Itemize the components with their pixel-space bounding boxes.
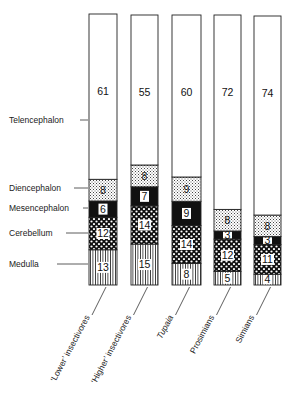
value-label: 8 bbox=[225, 214, 231, 226]
value-label: 14 bbox=[139, 219, 151, 231]
category-leader-line bbox=[134, 287, 148, 315]
value-label: 5 bbox=[225, 272, 231, 284]
value-label: 6 bbox=[100, 203, 106, 215]
value-label: 60 bbox=[181, 86, 193, 98]
value-label: 55 bbox=[139, 86, 151, 98]
value-label: 74 bbox=[262, 87, 274, 99]
value-label: 8 bbox=[265, 220, 271, 232]
value-label: 12 bbox=[97, 227, 109, 239]
value-label: 7 bbox=[142, 190, 148, 202]
row-label-cerebellum: Cerebellum bbox=[9, 228, 52, 238]
category-leader-line bbox=[217, 287, 231, 315]
row-label-diencephalon: Diencephalon bbox=[9, 183, 61, 193]
bar-3: 5123872 bbox=[214, 15, 241, 285]
category-labels-group: ‘Lower’ insectivores‘Higher’ insectivore… bbox=[48, 287, 270, 385]
value-label: 12 bbox=[222, 249, 234, 261]
value-label: 15 bbox=[139, 258, 151, 270]
category-label: Tupaia bbox=[155, 313, 176, 340]
value-label: 13 bbox=[97, 261, 109, 273]
bar-0: 13126861 bbox=[89, 14, 117, 285]
value-label: 72 bbox=[222, 86, 234, 98]
category-leader-line bbox=[92, 287, 106, 315]
category-label: Prosimians bbox=[188, 313, 217, 355]
bars-group: 1312686115147855814996051238724113874 bbox=[89, 14, 281, 285]
segment-telencephalon bbox=[214, 15, 241, 209]
row-label-medulla: Medulla bbox=[9, 259, 39, 269]
row-label-mesencephalon: Mesencephalon bbox=[9, 203, 69, 213]
bar-1: 15147855 bbox=[131, 15, 158, 285]
value-label: 9 bbox=[184, 183, 190, 195]
value-label: 9 bbox=[184, 207, 190, 219]
category-label: Simians bbox=[233, 313, 256, 344]
category-leader-line bbox=[257, 287, 271, 315]
value-label: 14 bbox=[181, 238, 193, 250]
segment-telencephalon bbox=[254, 16, 281, 215]
category-label: ‘Lower’ insectivores bbox=[48, 313, 92, 383]
value-label: 8 bbox=[142, 170, 148, 182]
stacked-bar-chart: 1312686115147855814996051238724113874 Te… bbox=[0, 0, 297, 403]
row-label-telencephalon: Telencephalon bbox=[9, 115, 64, 125]
bar-4: 4113874 bbox=[254, 16, 281, 285]
row-labels-group: TelencephalonDiencephalonMesencephalonCe… bbox=[9, 115, 88, 269]
category-label: ‘Higher’ insectivores bbox=[89, 313, 134, 385]
value-label: 11 bbox=[262, 253, 273, 265]
value-label: 61 bbox=[97, 85, 109, 97]
bar-2: 8149960 bbox=[172, 15, 201, 285]
value-label: 8 bbox=[100, 184, 106, 196]
category-leader-line bbox=[176, 287, 190, 315]
value-label: 8 bbox=[184, 268, 190, 280]
value-label: 4 bbox=[265, 273, 271, 285]
